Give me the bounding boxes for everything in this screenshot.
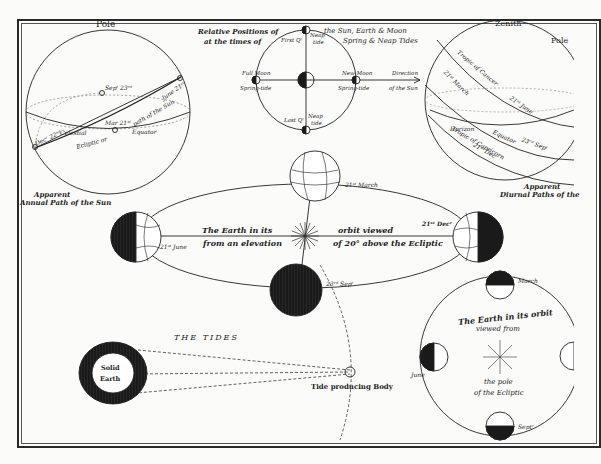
spring-tide-left-label: Spring-tide [240, 86, 271, 92]
tides-title: THE TIDES [174, 334, 239, 342]
orbit-sept-label: 23ʳᵈ Sepᵗ [326, 281, 353, 287]
polar-june-label: June [411, 372, 425, 378]
polar-text-3: the pole [484, 379, 513, 386]
annual-caption-1: Apparent [34, 191, 70, 198]
annual-celestial-label: Celestial [60, 130, 87, 136]
annual-path-globe [26, 30, 190, 194]
diurnal-caption-2: Diurnal Paths of the [500, 191, 579, 198]
orbit-text-4: of 20° above the Ecliptic [333, 239, 443, 247]
annual-mar-label: Mar 21ˢᵗ [105, 120, 131, 126]
moon-title-right-2: Spring & Neap Tides [343, 38, 418, 45]
orbit-text-1: The Earth in its [202, 226, 272, 234]
zenith-label: Zenith [495, 20, 521, 28]
orbit-dec-label: 21ˢᵗ Decʳ [422, 221, 452, 227]
earth-label: Earth [100, 376, 120, 383]
spring-tide-right-label: Spring-tide [338, 86, 369, 92]
orbit-text-2: orbit viewed [338, 226, 393, 234]
orbit-march-label: 21ˢᵗ March [345, 182, 378, 188]
polar-sept-label: Septʳ [518, 424, 534, 430]
annual-caption-2: Annual Path of the Sun [20, 199, 111, 206]
new-moon-label: New Moon [342, 71, 372, 77]
annual-equator-label: Equator [132, 129, 157, 135]
annual-pole-label: Pole [96, 20, 115, 29]
polar-text-4: of the Ecliptic [474, 390, 524, 397]
orbit-text-3: from an elevation [203, 239, 282, 247]
moon-title-left-2: at the times of [204, 38, 261, 45]
polar-march-label: March [518, 278, 538, 284]
neap-top-label: Neap [310, 33, 325, 39]
moon-title-left-1: Relative Positions of [198, 28, 278, 35]
first-quarter-label: First Qʳ [281, 38, 302, 44]
full-moon-label: Full Moon [242, 71, 270, 77]
direction-label-2: of the Sun [389, 86, 418, 92]
orbit-june-label: 21ˢᵗ June [160, 244, 187, 250]
polar-orbit-diagram [420, 271, 574, 440]
neap-bottom-label: Neap [308, 114, 323, 120]
diurnal-caption-1: Apparent [524, 183, 560, 190]
moon-title-right-1: the Sun, Earth & Moon [324, 28, 407, 35]
solid-label: Solid [101, 365, 120, 372]
polar-text-2: viewed from [476, 326, 520, 333]
annual-sep-label: Sepᵗ 23ʳᵈ [105, 85, 132, 91]
tide-bottom-label: tide [311, 121, 322, 127]
tide-top-label: tide [313, 40, 324, 46]
elevated-orbit-diagram [111, 151, 503, 316]
last-quarter-label: Last Qʳ [284, 118, 304, 124]
diurnal-pole-label: Pole [551, 37, 568, 45]
tide-body-label: Tide producing Body [311, 383, 393, 390]
direction-label-1: Direction [392, 71, 418, 77]
